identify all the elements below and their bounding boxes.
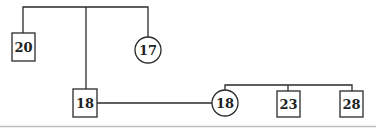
gen3-child-1-label: 23 xyxy=(279,97,297,112)
gen3-child-2-label: 28 xyxy=(342,97,360,112)
gen2-female-node: 18 xyxy=(212,90,238,116)
gen1-male-label: 20 xyxy=(14,40,32,55)
gen3-child-1-node: 23 xyxy=(277,91,300,117)
gen1-female-node: 17 xyxy=(135,37,161,63)
gen1-female-label: 17 xyxy=(139,43,157,58)
gen2-male-label: 18 xyxy=(76,96,94,111)
gen1-male-node: 20 xyxy=(12,33,35,61)
pedigree-diagram: 20 17 18 18 23 28 xyxy=(0,0,376,129)
gen3-child-2-node: 28 xyxy=(340,91,363,117)
gen2-male-node: 18 xyxy=(73,89,97,117)
gen2-female-label: 18 xyxy=(216,96,234,111)
